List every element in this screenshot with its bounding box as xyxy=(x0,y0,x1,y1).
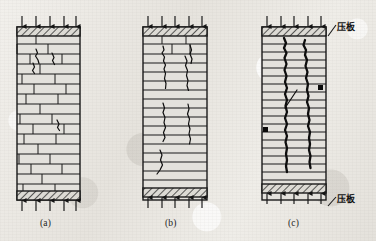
damage-marker-c-1 xyxy=(263,127,268,132)
pressure-plate-top-b xyxy=(143,27,207,36)
wall-specimen-c xyxy=(262,16,326,204)
pressure-plate-bottom-a xyxy=(17,191,80,200)
wall-body-c xyxy=(262,27,326,200)
pressure-plate-bottom-b xyxy=(143,188,207,197)
pressure-plate-top-a xyxy=(17,27,80,36)
wall-specimen-a xyxy=(17,16,80,211)
plate-bottom-label: 压板 xyxy=(337,192,355,205)
wall-specimen-b xyxy=(143,16,207,208)
plate-top-label: 压板 xyxy=(337,20,355,33)
panel-caption-a: (a) xyxy=(40,218,51,228)
panel-caption-b: (b) xyxy=(165,218,177,228)
pressure-plate-top-c xyxy=(262,27,326,36)
panel-caption-c: (c) xyxy=(288,218,299,228)
leader-line-plate-bottom-label xyxy=(328,197,336,206)
leader-line-plate-top-label xyxy=(328,25,336,36)
figure-canvas xyxy=(0,0,376,241)
wall-body-b xyxy=(143,27,207,200)
damage-marker-c-0 xyxy=(318,85,323,90)
pressure-plate-bottom-c xyxy=(262,184,326,193)
